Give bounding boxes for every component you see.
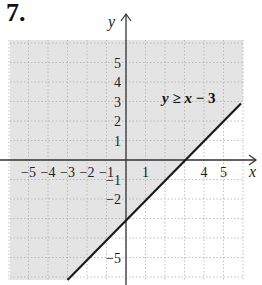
x-tick-label: 1: [142, 165, 149, 180]
y-tick-label: 3: [114, 95, 121, 110]
x-tick-label: 5: [220, 165, 227, 180]
inequality-rest: − 3: [192, 90, 216, 106]
x-tick-label: −2: [80, 165, 95, 180]
y-tick-label: −2: [106, 192, 121, 207]
inequality-op: ≥: [169, 90, 185, 106]
y-tick-label: 5: [114, 56, 121, 71]
inequality-y: y: [160, 90, 169, 106]
y-axis-label: y: [106, 13, 116, 31]
inequality-graph: −5−4−3−2−114554321−1−2−5 x y y ≥ x − 3: [0, 0, 262, 285]
x-tick-label: −4: [41, 165, 56, 180]
x-tick-label: −5: [21, 165, 36, 180]
y-tick-label: 4: [114, 75, 121, 90]
y-tick-label: 1: [114, 134, 121, 149]
inequality-label: y ≥ x − 3: [160, 90, 215, 106]
y-tick-label: −5: [106, 251, 121, 266]
x-axis-label: x: [248, 163, 256, 180]
y-tick-label: −1: [106, 173, 121, 188]
x-tick-label: 4: [201, 165, 208, 180]
y-tick-label: 2: [114, 114, 121, 129]
x-tick-label: −3: [60, 165, 75, 180]
